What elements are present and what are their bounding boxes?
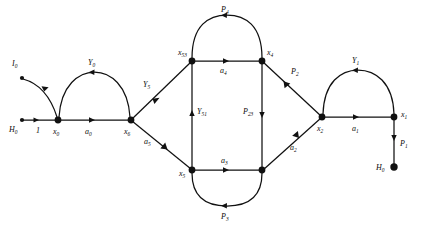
- edge-a0: [58, 117, 131, 123]
- node-x6[interactable]: [128, 117, 135, 124]
- label-i0: I0: [11, 59, 18, 69]
- node-i0[interactable]: [20, 76, 24, 80]
- node-x3[interactable]: [259, 167, 266, 174]
- node-x0[interactable]: [55, 117, 62, 124]
- label-one: 1: [36, 126, 40, 135]
- edge-a1: [322, 114, 394, 120]
- edge-p23: [259, 61, 264, 170]
- label-a5: a5: [144, 137, 151, 147]
- edge-one: [22, 117, 58, 122]
- edge-y0: [59, 69, 130, 117]
- edge-a4: [192, 58, 262, 64]
- label-p3: P3: [220, 212, 229, 222]
- diagram-canvas: I0 H0 1 x0 a0 Y0 x6 Y5 a5 x53 P4 a4 x4 Y…: [0, 0, 422, 226]
- label-p4: P4: [220, 5, 229, 15]
- label-a3: a3: [221, 156, 228, 166]
- node-h0-left[interactable]: [20, 118, 24, 122]
- label-x53: x53: [177, 48, 187, 58]
- label-p23: P23: [242, 107, 254, 117]
- node-x53[interactable]: [189, 58, 196, 65]
- node-h0-right[interactable]: [390, 163, 397, 170]
- label-p2: P2: [290, 67, 299, 77]
- node-x4[interactable]: [259, 58, 266, 65]
- label-y0: Y0: [88, 58, 95, 68]
- label-a4: a4: [220, 66, 227, 76]
- edge-p4: [192, 12, 262, 58]
- label-x0: x0: [52, 127, 60, 137]
- label-h0-left: H0: [8, 125, 18, 135]
- label-h0-right: H0: [375, 163, 385, 173]
- edge-y5: [132, 62, 191, 119]
- edge-a3: [192, 167, 262, 173]
- edge-a5: [132, 121, 191, 169]
- edge-i0: [23, 79, 57, 117]
- label-x1: x1: [400, 110, 408, 120]
- label-a2: a2: [290, 143, 297, 153]
- label-y51: Y51: [197, 107, 207, 117]
- edge-p3: [192, 173, 262, 209]
- edge-y1: [323, 67, 394, 114]
- node-x1[interactable]: [391, 114, 398, 121]
- label-x2: x2: [316, 124, 324, 134]
- label-y1: Y1: [352, 56, 359, 66]
- label-x5: x5: [178, 169, 186, 179]
- edge-p1: [391, 117, 396, 167]
- node-x5[interactable]: [189, 167, 196, 174]
- label-a0: a0: [85, 127, 92, 137]
- label-a1: a1: [352, 124, 359, 134]
- label-y5: Y5: [143, 80, 150, 90]
- node-x2[interactable]: [319, 114, 326, 121]
- label-p1: P1: [399, 139, 408, 149]
- label-x4: x4: [266, 48, 274, 58]
- edge-y51: [189, 61, 194, 170]
- label-x6: x6: [123, 127, 131, 137]
